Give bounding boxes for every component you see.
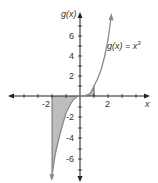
- y-tick-label-4: 4: [69, 51, 74, 61]
- x-axis-left-arrow-icon: [8, 94, 14, 99]
- curve-bottom-arrow-icon: [50, 174, 55, 181]
- y-tick-label-neg4: -4: [66, 133, 74, 143]
- y-tick-label-neg6: -6: [66, 154, 74, 164]
- x-axis-right-arrow-icon: [144, 94, 150, 99]
- cubic-function-chart: g(x) x g(x) = x3 -2 2 6 4 2 -2 -4 -6: [0, 0, 158, 183]
- y-axis-down-arrow-icon: [78, 176, 83, 182]
- function-label: g(x) = x3: [107, 40, 141, 51]
- x-tick-label-2: 2: [105, 99, 110, 109]
- y-tick-label-2: 2: [69, 71, 74, 81]
- y-tick-label-6: 6: [69, 31, 74, 41]
- curve-top-arrow-icon: [109, 13, 114, 21]
- x-axis-label: x: [144, 99, 150, 109]
- y-tick-label-neg2: -2: [66, 112, 74, 122]
- y-axis-label: g(x): [61, 9, 77, 19]
- x-tick-label-neg2: -2: [42, 99, 50, 109]
- y-axis-up-arrow-icon: [78, 12, 83, 18]
